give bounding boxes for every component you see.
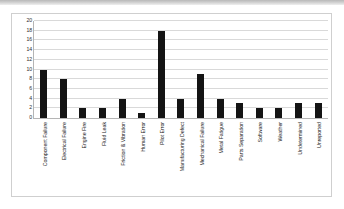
x-tick-slot: Metal Fatigue — [209, 120, 229, 196]
x-tick-label: Human Error — [141, 122, 146, 152]
bar[interactable] — [119, 99, 126, 118]
bar-slot — [34, 21, 54, 118]
bar[interactable] — [60, 79, 67, 118]
x-tick-slot: Engine Fire — [72, 120, 92, 196]
y-tick-label: 8 — [29, 77, 32, 82]
bar[interactable] — [79, 108, 86, 118]
x-tick-slot: Electrical Failure — [53, 120, 73, 196]
y-tick-label: 16 — [26, 38, 32, 43]
x-tick-label: Metal Fatigue — [219, 122, 224, 153]
x-tick-slot: Mechanical Failure — [190, 120, 210, 196]
x-tick-slot: Weather — [268, 120, 288, 196]
x-tick-slot: Component Failure — [33, 120, 53, 196]
bar[interactable] — [275, 108, 282, 118]
x-tick-label: Mechanical Failure — [200, 122, 205, 166]
x-tick-slot: Unreported — [307, 120, 327, 196]
y-tick-label: 4 — [29, 96, 32, 101]
bar-slot — [210, 21, 230, 118]
x-tick-label: Pilot Error — [160, 122, 165, 145]
bar[interactable] — [138, 113, 145, 118]
x-axis: Component FailureElectrical FailureEngin… — [33, 120, 327, 196]
bar-slot — [171, 21, 191, 118]
y-tick-label: 12 — [26, 57, 32, 62]
x-tick-slot: Undetermined — [288, 120, 308, 196]
scan-edge-band — [0, 0, 344, 5]
bar-slot — [152, 21, 172, 118]
bar-slot — [132, 21, 152, 118]
bar[interactable] — [177, 99, 184, 118]
y-tick-label: 0 — [29, 115, 32, 120]
y-tick-label: 14 — [26, 47, 32, 52]
bar[interactable] — [295, 103, 302, 118]
x-tick-slot: Pilot Error — [151, 120, 171, 196]
bar-slot — [269, 21, 289, 118]
bar[interactable] — [217, 99, 224, 118]
y-tick-label: 20 — [26, 18, 32, 23]
bar-slot — [191, 21, 211, 118]
y-tick-label: 10 — [26, 67, 32, 72]
x-tick-label: Undetermined — [298, 122, 303, 155]
x-tick-slot: Friction & Vibration — [111, 120, 131, 196]
x-tick-label: Electrical Failure — [62, 122, 67, 160]
x-tick-slot: Parts Separation — [229, 120, 249, 196]
x-tick-label: Fluid Leak — [102, 122, 107, 146]
bar[interactable] — [158, 31, 165, 118]
bar-slot — [112, 21, 132, 118]
bar[interactable] — [315, 103, 322, 118]
bar[interactable] — [197, 74, 204, 118]
x-tick-slot: Software — [249, 120, 269, 196]
bar-slot — [93, 21, 113, 118]
x-tick-label: Engine Fire — [82, 122, 87, 149]
chart-plot-wrapper: 02468101214161820 Component FailureElect… — [12, 14, 333, 198]
bar[interactable] — [236, 103, 243, 118]
x-tick-label: Component Failure — [43, 122, 48, 166]
bar[interactable] — [256, 108, 263, 118]
y-tick-label: 18 — [26, 28, 32, 33]
bar-slot — [289, 21, 309, 118]
x-tick-slot: Fluid Leak — [92, 120, 112, 196]
x-tick-label: Unreported — [317, 122, 322, 148]
bar[interactable] — [40, 70, 47, 119]
chart-frame: 02468101214161820 Component FailureElect… — [11, 13, 332, 197]
bar[interactable] — [99, 108, 106, 118]
plot-area — [33, 21, 328, 119]
x-tick-label: Manufacturing Defect — [180, 122, 185, 171]
y-axis: 02468101214161820 — [15, 21, 32, 118]
bar-slot — [73, 21, 93, 118]
y-tick-label: 2 — [29, 106, 32, 111]
bar-slot — [230, 21, 250, 118]
x-tick-label: Friction & Vibration — [121, 122, 126, 166]
bar-slot — [250, 21, 270, 118]
y-tick-label: 6 — [29, 86, 32, 91]
x-tick-label: Software — [258, 122, 263, 143]
x-tick-slot: Human Error — [131, 120, 151, 196]
bar-series — [34, 21, 328, 118]
x-tick-label: Parts Separation — [239, 122, 244, 161]
x-tick-slot: Manufacturing Defect — [170, 120, 190, 196]
x-tick-label: Weather — [278, 122, 283, 142]
bar-slot — [308, 21, 328, 118]
bar-slot — [54, 21, 74, 118]
